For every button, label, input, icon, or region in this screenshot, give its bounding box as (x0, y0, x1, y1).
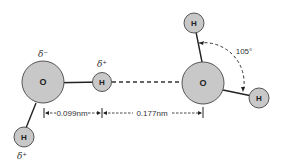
angle-arrowhead-top (199, 41, 204, 45)
covalent-bond-o-h-bottom (26, 103, 36, 128)
charge-label-hydrogen-bridge: δ⁺ (97, 59, 107, 69)
hydrogen-bond-length-label: 0.177nm (136, 109, 167, 118)
hydrogen-bridge-label: H (99, 78, 105, 87)
arrowhead-icon (198, 111, 202, 115)
dimension-line: 0.099nm 0.177nm (44, 107, 203, 118)
charge-label-oxygen-left: δ⁻ (38, 49, 48, 59)
bond-angle-label: 105° (236, 47, 253, 56)
covalent-bond-length-label: 0.099nm (56, 109, 87, 118)
hydrogen-atom-right-top: H (184, 13, 204, 33)
covalent-bond-o-h-side (223, 90, 252, 96)
hydrogen-left-bottom-label: H (21, 133, 27, 142)
oxygen-atom-right: O (182, 62, 224, 104)
charge-label-hydrogen-bottom: δ⁺ (17, 151, 27, 161)
hydrogen-atom-left-bottom: H (14, 127, 34, 147)
water-hydrogen-bond-diagram: O H H O H H δ⁻ δ⁺ δ⁺ 0.099 (0, 0, 285, 165)
covalent-bond-o-h-top (196, 32, 202, 62)
oxygen-left-label: O (39, 77, 46, 87)
arrowhead-icon (45, 111, 49, 115)
hydrogen-atom-right-side: H (249, 88, 269, 108)
hydrogen-right-top-label: H (191, 19, 197, 28)
arrowhead-icon (103, 111, 107, 115)
hydrogen-right-side-label: H (256, 94, 262, 103)
oxygen-atom-left: O (22, 61, 64, 103)
oxygen-right-label: O (199, 78, 206, 88)
hydrogen-atom-bridge: H (93, 73, 112, 92)
angle-arrowhead-bottom (241, 87, 245, 92)
arrowhead-icon (97, 111, 101, 115)
